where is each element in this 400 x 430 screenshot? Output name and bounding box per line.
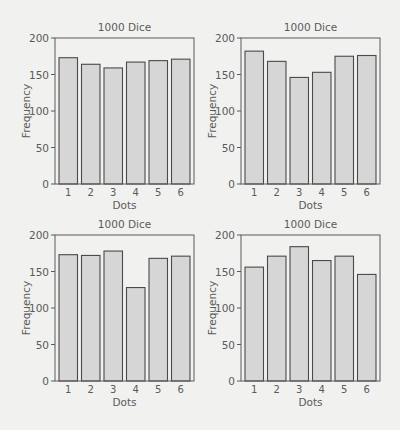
x-tick-label: 3: [110, 384, 116, 395]
y-tick-label: 200: [29, 32, 49, 44]
y-tick-label: 50: [222, 339, 235, 351]
y-axis-label: Frequency: [20, 281, 32, 335]
x-tick-label: 4: [133, 384, 139, 395]
chart-panel-bottom-right: 1000 Dice123456050100150200DotsFrequency: [186, 197, 386, 412]
bar-1: [59, 255, 78, 381]
bar-3: [104, 68, 123, 184]
bar-4: [127, 62, 146, 184]
bar-4: [127, 288, 146, 381]
bar-6: [358, 274, 377, 381]
y-tick-label: 200: [215, 229, 235, 241]
x-axis-label: Dots: [298, 396, 322, 408]
bar-6: [358, 56, 377, 184]
chart-panel-top-left: 1000 Dice123456050100150200DotsFrequency: [0, 0, 200, 215]
x-tick-label: 3: [296, 384, 302, 395]
bar-5: [335, 256, 354, 381]
bar-2: [82, 255, 101, 381]
bar-3: [290, 247, 309, 381]
x-tick-label: 5: [155, 384, 161, 395]
x-tick-label: 6: [178, 384, 184, 395]
chart-panel-top-right: 1000 Dice123456050100150200DotsFrequency: [186, 0, 386, 215]
bar-4: [313, 261, 332, 381]
bar-5: [149, 258, 168, 381]
x-tick-label: 5: [341, 384, 347, 395]
bar-chart: 1000 Dice123456050100150200DotsFrequency: [186, 197, 386, 412]
x-tick-label: 6: [364, 384, 370, 395]
y-tick-label: 50: [222, 142, 235, 154]
y-tick-label: 50: [36, 142, 49, 154]
x-axis-label: Dots: [112, 396, 136, 408]
x-tick-label: 1: [65, 384, 71, 395]
y-tick-label: 200: [29, 229, 49, 241]
bar-2: [82, 64, 101, 184]
x-tick-label: 1: [251, 384, 257, 395]
bar-chart: 1000 Dice123456050100150200DotsFrequency: [0, 197, 200, 412]
y-tick-label: 0: [42, 375, 49, 387]
bar-2: [268, 61, 287, 184]
y-tick-label: 0: [228, 178, 235, 190]
bar-1: [245, 51, 264, 184]
y-tick-label: 200: [215, 32, 235, 44]
bar-1: [59, 58, 78, 184]
bar-chart: 1000 Dice123456050100150200DotsFrequency: [0, 0, 200, 215]
bar-3: [290, 77, 309, 184]
bar-1: [245, 267, 264, 381]
chart-panel-bottom-left: 1000 Dice123456050100150200DotsFrequency: [0, 197, 200, 412]
chart-title: 1000 Dice: [98, 218, 151, 230]
x-tick-label: 4: [319, 384, 325, 395]
chart-title: 1000 Dice: [284, 218, 337, 230]
y-tick-label: 0: [42, 178, 49, 190]
y-axis-label: Frequency: [206, 281, 218, 335]
y-axis-label: Frequency: [206, 84, 218, 138]
y-tick-label: 150: [29, 69, 49, 81]
y-tick-label: 150: [29, 266, 49, 278]
y-axis-label: Frequency: [20, 84, 32, 138]
bar-4: [313, 72, 332, 184]
bar-5: [149, 61, 168, 184]
bar-3: [104, 251, 123, 381]
y-tick-label: 50: [36, 339, 49, 351]
bar-chart: 1000 Dice123456050100150200DotsFrequency: [186, 0, 386, 215]
y-tick-label: 150: [215, 69, 235, 81]
x-tick-label: 2: [88, 384, 94, 395]
y-tick-label: 150: [215, 266, 235, 278]
bar-2: [268, 256, 287, 381]
bar-5: [335, 56, 354, 184]
x-tick-label: 2: [274, 384, 280, 395]
y-tick-label: 0: [228, 375, 235, 387]
chart-title: 1000 Dice: [284, 21, 337, 33]
chart-title: 1000 Dice: [98, 21, 151, 33]
